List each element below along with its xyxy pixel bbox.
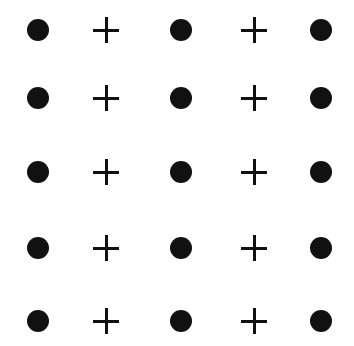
grid-cell-r3-c5 — [306, 157, 336, 187]
dot-icon — [27, 237, 49, 259]
plus-icon — [241, 17, 267, 43]
grid-cell-r5-c4 — [239, 306, 269, 336]
dot-icon — [27, 19, 49, 41]
grid-cell-r1-c1 — [23, 15, 53, 45]
plus-icon — [241, 235, 267, 261]
plus-icon — [93, 85, 119, 111]
grid-cell-r4-c5 — [306, 233, 336, 263]
plus-icon — [93, 17, 119, 43]
grid-cell-r1-c4 — [239, 15, 269, 45]
grid-cell-r2-c4 — [239, 83, 269, 113]
dot-icon — [310, 237, 332, 259]
grid-cell-r1-c5 — [306, 15, 336, 45]
dot-icon — [170, 19, 192, 41]
dot-icon — [27, 87, 49, 109]
grid-cell-r5-c1 — [23, 306, 53, 336]
grid-cell-r1-c2 — [91, 15, 121, 45]
dot-icon — [310, 161, 332, 183]
dot-icon — [310, 87, 332, 109]
grid-cell-r2-c1 — [23, 83, 53, 113]
dot-icon — [170, 237, 192, 259]
plus-icon — [93, 235, 119, 261]
grid-cell-r2-c2 — [91, 83, 121, 113]
grid-cell-r4-c4 — [239, 233, 269, 263]
grid-cell-r5-c2 — [91, 306, 121, 336]
dot-icon — [170, 161, 192, 183]
dot-icon — [170, 310, 192, 332]
grid-cell-r5-c3 — [166, 306, 196, 336]
plus-icon — [93, 159, 119, 185]
grid-cell-r2-c3 — [166, 83, 196, 113]
grid-cell-r2-c5 — [306, 83, 336, 113]
grid-cell-r4-c2 — [91, 233, 121, 263]
grid-cell-r3-c2 — [91, 157, 121, 187]
dot-icon — [310, 19, 332, 41]
grid-cell-r3-c1 — [23, 157, 53, 187]
plus-icon — [241, 308, 267, 334]
grid-cell-r4-c1 — [23, 233, 53, 263]
plus-icon — [241, 85, 267, 111]
grid-cell-r3-c3 — [166, 157, 196, 187]
dot-icon — [170, 87, 192, 109]
grid-cell-r1-c3 — [166, 15, 196, 45]
dot-icon — [27, 161, 49, 183]
plus-icon — [93, 308, 119, 334]
grid-cell-r5-c5 — [306, 306, 336, 336]
grid-cell-r4-c3 — [166, 233, 196, 263]
dot-icon — [27, 310, 49, 332]
dot-icon — [310, 310, 332, 332]
plus-icon — [241, 159, 267, 185]
grid-cell-r3-c4 — [239, 157, 269, 187]
